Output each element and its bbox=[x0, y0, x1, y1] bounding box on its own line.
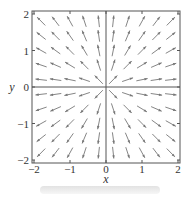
arrowhead-icon bbox=[158, 109, 161, 111]
arrowhead-icon bbox=[79, 78, 82, 80]
arrowhead-icon bbox=[36, 63, 39, 65]
arrowhead-icon bbox=[65, 109, 68, 112]
y-tick-label: 1 bbox=[24, 45, 30, 57]
x-axis-label: x bbox=[102, 172, 109, 186]
x-tick-label: 1 bbox=[139, 163, 145, 175]
arrowhead-icon bbox=[113, 60, 115, 63]
direction-field-plot: −2−1012−2−1012 x y bbox=[0, 0, 190, 197]
arrowhead-icon bbox=[128, 45, 131, 48]
arrowhead-icon bbox=[79, 94, 82, 96]
arrowhead-icon bbox=[97, 60, 99, 63]
arrowhead-icon bbox=[158, 63, 161, 65]
arrowhead-icon bbox=[82, 140, 84, 143]
y-tick-label: 2 bbox=[24, 8, 30, 20]
arrowhead-icon bbox=[173, 63, 176, 65]
arrowhead-icon bbox=[97, 111, 99, 114]
arrowhead-icon bbox=[50, 109, 53, 111]
arrowhead-icon bbox=[130, 78, 133, 80]
y-tick-label: −1 bbox=[17, 118, 29, 130]
y-tick-label: 0 bbox=[24, 81, 30, 93]
arrowhead-icon bbox=[65, 62, 68, 65]
arrowhead-icon bbox=[82, 31, 84, 34]
arrowhead-icon bbox=[50, 63, 53, 65]
y-tick-label: −2 bbox=[17, 154, 29, 166]
arrowhead-icon bbox=[127, 16, 129, 19]
arrowhead-icon bbox=[127, 140, 129, 143]
arrowhead-icon bbox=[127, 155, 129, 158]
arrowhead-icon bbox=[128, 125, 131, 128]
page-shadow bbox=[40, 186, 160, 194]
arrowhead-icon bbox=[82, 16, 84, 19]
arrowhead-icon bbox=[127, 31, 129, 34]
x-tick-label: 2 bbox=[175, 163, 181, 175]
arrowhead-icon bbox=[113, 111, 115, 114]
arrowhead-icon bbox=[81, 125, 84, 128]
arrowhead-icon bbox=[144, 62, 147, 65]
arrowhead-icon bbox=[144, 109, 147, 112]
x-tick-label: −1 bbox=[64, 163, 76, 175]
arrowhead-icon bbox=[82, 155, 84, 158]
arrowhead-icon bbox=[130, 94, 133, 96]
arrowhead-icon bbox=[36, 109, 39, 111]
arrowhead-icon bbox=[81, 45, 84, 48]
y-axis-label: y bbox=[8, 80, 15, 94]
arrowhead-icon bbox=[173, 109, 176, 111]
x-tick-label: −2 bbox=[28, 163, 40, 175]
